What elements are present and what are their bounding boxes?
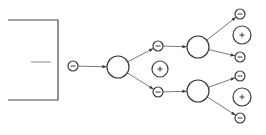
- tree-diagram: [0, 0, 266, 135]
- edge-arrow: [163, 91, 187, 92]
- edge-arrow: [207, 17, 236, 40]
- big-circle-icon: [187, 36, 209, 58]
- minus-node: [235, 52, 245, 62]
- bracket-outline: [8, 20, 58, 100]
- minus-node: [68, 61, 78, 71]
- edge-arrow: [209, 50, 235, 56]
- bracket: [8, 20, 58, 100]
- edge-arrow: [208, 78, 234, 87]
- plus-node: [233, 26, 251, 44]
- edge-arrow: [163, 46, 187, 47]
- diagram-canvas: [0, 0, 266, 135]
- edge-arrow: [78, 66, 107, 67]
- plus-node: [152, 61, 168, 77]
- edge-arrow: [128, 49, 153, 62]
- big-node: [107, 56, 129, 78]
- plus-node: [233, 88, 251, 106]
- nodes: [68, 9, 251, 123]
- minus-node: [153, 41, 163, 51]
- big-circle-icon: [187, 80, 209, 102]
- edge-arrow: [207, 97, 235, 115]
- minus-node: [153, 87, 163, 97]
- big-node: [187, 36, 209, 58]
- minus-node: [235, 71, 245, 81]
- minus-node: [235, 113, 245, 123]
- edge-arrow: [127, 73, 153, 89]
- big-node: [187, 80, 209, 102]
- minus-node: [235, 9, 245, 19]
- big-circle-icon: [107, 56, 129, 78]
